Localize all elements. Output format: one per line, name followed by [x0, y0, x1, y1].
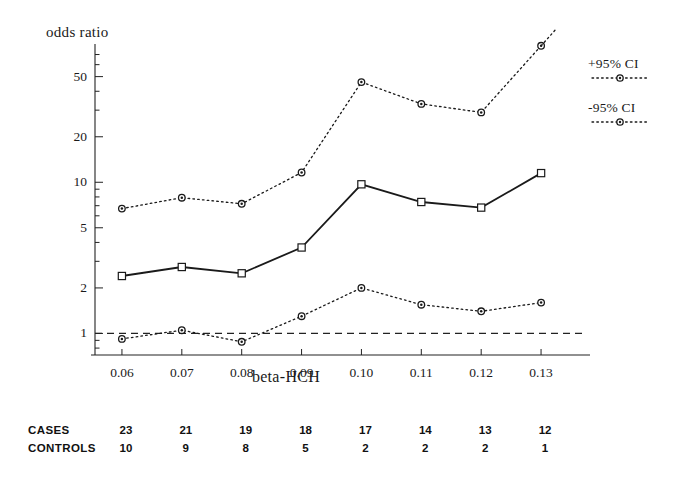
marker-circle-center [240, 203, 243, 206]
marker-circle-center [181, 196, 184, 199]
legend-label-lower-ci: -95% CI [588, 100, 636, 116]
counts-cell: 10 [106, 442, 146, 454]
y-tick-label: 10 [53, 174, 87, 190]
counts-table: CASES2321191817141312CONTROLS109852221 [0, 408, 690, 454]
marker-square [358, 181, 365, 188]
marker-circle-center [300, 315, 303, 318]
legend-marker-center-0 [619, 77, 621, 79]
y-axis-title: odds ratio [46, 24, 109, 41]
counts-cell: 14 [405, 424, 445, 436]
counts-cell: 5 [286, 442, 326, 454]
marker-square [178, 263, 185, 270]
y-tick-label: 20 [53, 129, 87, 145]
marker-circle-center [300, 171, 303, 174]
marker-square [418, 198, 425, 205]
marker-circle-center [121, 338, 124, 341]
x-axis-title: beta-HCH [0, 368, 690, 386]
marker-circle-center [420, 303, 423, 306]
marker-circle-center [360, 81, 363, 84]
counts-cell: 12 [525, 424, 565, 436]
counts-cell: 2 [345, 442, 385, 454]
counts-cell: 21 [166, 424, 206, 436]
legend-marker-center-1 [619, 121, 621, 123]
y-tick-label: 2 [53, 280, 87, 296]
y-tick-label: 50 [53, 69, 87, 85]
counts-cell: 8 [226, 442, 266, 454]
counts-cell: 9 [166, 442, 206, 454]
counts-cell: 23 [106, 424, 146, 436]
legend-label-upper-ci: +95% CI [588, 56, 639, 72]
counts-cell: 2 [405, 442, 445, 454]
counts-cell: 1 [525, 442, 565, 454]
marker-circle-center [181, 329, 184, 332]
counts-cell: 18 [286, 424, 326, 436]
counts-row-label-cases: CASES [28, 424, 70, 436]
y-tick-label: 1 [53, 325, 87, 341]
marker-circle-center [480, 111, 483, 114]
marker-circle-center [360, 287, 363, 290]
counts-cell: 19 [226, 424, 266, 436]
marker-square [298, 244, 305, 251]
marker-circle-center [240, 341, 243, 344]
y-tick-label: 5 [53, 220, 87, 236]
series-layer [118, 30, 555, 345]
counts-row-label-controls: CONTROLS [28, 442, 96, 454]
counts-cell: 13 [465, 424, 505, 436]
marker-square [118, 272, 125, 279]
counts-cell: 2 [465, 442, 505, 454]
counts-cell: 17 [345, 424, 385, 436]
marker-square [238, 270, 245, 277]
marker-circle-center [480, 310, 483, 313]
axes-layer [91, 44, 590, 355]
odds-ratio-chart: odds ratio 125102050 0.060.070.080.090.1… [0, 0, 690, 485]
series-line-1 [122, 46, 541, 209]
marker-square [478, 204, 485, 211]
marker-circle-center [420, 103, 423, 106]
marker-circle-center [121, 207, 124, 210]
marker-circle-center [540, 301, 543, 304]
marker-square [538, 170, 545, 177]
series-line-0 [122, 173, 541, 276]
